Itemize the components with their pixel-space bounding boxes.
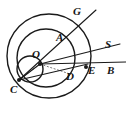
point-label-D: D (66, 71, 74, 82)
point-marker-O (38, 62, 42, 66)
geometry-figure: GASODEBC (0, 0, 126, 121)
point-label-B: B (107, 65, 114, 76)
point-label-E: E (88, 65, 95, 76)
figure-canvas (0, 0, 126, 121)
point-label-C: C (10, 84, 17, 95)
point-label-G: G (73, 6, 81, 17)
point-marker-C (17, 78, 21, 82)
point-label-S: S (105, 39, 111, 50)
point-label-A: A (56, 32, 63, 43)
point-label-O: O (32, 49, 40, 60)
